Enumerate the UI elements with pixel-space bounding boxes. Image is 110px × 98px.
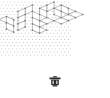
lattice-dot <box>35 45 36 46</box>
lattice-dot <box>23 29 24 30</box>
lattice-dot <box>12 48 13 49</box>
lattice-dot <box>37 36 38 37</box>
lattice-dot <box>14 51 15 52</box>
lattice-dot <box>59 36 60 37</box>
lattice-dot <box>28 1 29 2</box>
lattice-dot <box>28 33 29 34</box>
lattice-dot <box>25 39 26 40</box>
lattice-dot <box>14 8 15 9</box>
tiling-vertex <box>46 29 48 31</box>
lattice-dot <box>21 8 22 9</box>
lattice-dot <box>68 51 69 52</box>
lattice-dot <box>53 33 54 34</box>
lattice-dot <box>1 23 2 24</box>
lattice-dot <box>52 29 53 30</box>
lattice-dot <box>12 5 13 6</box>
lattice-dot <box>70 48 71 49</box>
lattice-dot <box>39 39 40 40</box>
tiling-vertex <box>32 11 34 13</box>
lattice-dot <box>43 51 44 52</box>
lattice-dot <box>57 26 58 27</box>
tiling-vertex <box>24 7 26 9</box>
lattice-dot <box>12 36 13 37</box>
lattice-dot <box>59 54 60 55</box>
lattice-dot <box>23 5 24 6</box>
lattice-dot <box>30 17 31 18</box>
lattice-dot <box>68 26 69 27</box>
lattice-dot <box>46 39 47 40</box>
lattice-dot <box>5 11 6 12</box>
lattice-dot <box>50 33 51 34</box>
lattice-dot <box>17 33 18 34</box>
lattice-dot <box>34 54 35 55</box>
lattice-dot <box>35 8 36 9</box>
lattice-dot <box>70 36 71 37</box>
lattice-dot <box>28 51 29 52</box>
lattice-dot <box>1 48 2 49</box>
lattice-dot <box>48 54 49 55</box>
lattice-dot <box>28 20 29 21</box>
lattice-dot <box>21 33 22 34</box>
lattice-dot <box>46 45 47 46</box>
lattice-dot <box>55 17 56 18</box>
lattice-dot <box>26 36 27 37</box>
lattice-dot <box>68 33 69 34</box>
tiling-vertex <box>32 17 34 19</box>
tiling-vertex <box>39 26 41 28</box>
lattice-dot <box>62 42 63 43</box>
lattice-dot <box>8 11 9 12</box>
lattice-dot <box>19 54 20 55</box>
lattice-dot <box>14 14 15 15</box>
lattice-dot <box>44 36 45 37</box>
tiling-vertex <box>24 20 26 22</box>
lattice-dot <box>61 33 62 34</box>
lattice-dot <box>16 54 17 55</box>
lattice-dot <box>53 39 54 40</box>
lattice-dot <box>23 48 24 49</box>
lattice-dot <box>17 1 18 2</box>
tiling-vertex <box>68 14 70 16</box>
lattice-dot <box>7 14 8 15</box>
lattice-dot <box>41 36 42 37</box>
lattice-dot <box>61 45 62 46</box>
tiling-vertex <box>17 23 19 25</box>
lattice-dot <box>43 1 44 2</box>
lattice-dot <box>53 45 54 46</box>
lattice-dot <box>53 51 54 52</box>
lattice-dot <box>64 33 65 34</box>
tiling-vertex <box>75 11 77 13</box>
lattice-dot <box>37 54 38 55</box>
lattice-dot <box>16 5 17 6</box>
lattice-dot <box>21 1 22 2</box>
lattice-dot <box>50 14 51 15</box>
lattice-dot <box>43 26 44 27</box>
lattice-dot <box>55 36 56 37</box>
lattice-dot <box>19 42 20 43</box>
lattice-dot <box>62 36 63 37</box>
lattice-dot <box>5 36 6 37</box>
lattice-dot <box>52 17 53 18</box>
lattice-dot <box>32 39 33 40</box>
lattice-dot <box>50 45 51 46</box>
lattice-dot <box>28 14 29 15</box>
lattice-dot <box>55 29 56 30</box>
lattice-dot <box>50 26 51 27</box>
lattice-dot <box>30 29 31 30</box>
tiling-vertex <box>60 23 62 25</box>
lattice-dot <box>30 23 31 24</box>
lattice-dot <box>7 1 8 2</box>
lattice-dot <box>55 42 56 43</box>
lattice-dot <box>35 51 36 52</box>
lattice-dot <box>66 5 67 6</box>
lattice-dot <box>10 51 11 52</box>
lattice-dot <box>26 17 27 18</box>
tiling-vertex <box>39 7 41 9</box>
lattice-dot <box>34 42 35 43</box>
lattice-dot <box>26 5 27 6</box>
lattice-dot <box>66 54 67 55</box>
lattice-dot <box>52 54 53 55</box>
lattice-dot <box>7 45 8 46</box>
lattice-dot <box>46 26 47 27</box>
tiling-vertex <box>60 11 62 13</box>
lattice-dot <box>16 36 17 37</box>
